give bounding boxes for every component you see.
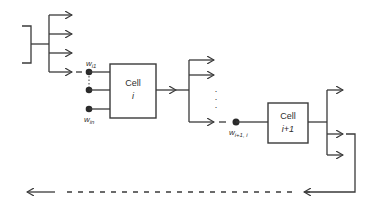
input-bracket	[22, 26, 49, 63]
cell-i-plus-1: Cell i+1	[268, 103, 308, 143]
link-weight: wi+1, i	[229, 119, 268, 139]
svg-text:Cell: Cell	[280, 111, 296, 121]
weight-label-in: win	[84, 115, 95, 125]
left-fanout-arrows	[49, 15, 82, 72]
cell-i-weights: wi1 win	[84, 59, 110, 125]
cell-i-plus-1-output	[308, 90, 343, 155]
cell-i-output: ...	[156, 60, 226, 122]
weight-label-link: wi+1, i	[229, 128, 248, 138]
svg-text:Cell: Cell	[125, 78, 141, 88]
weight-label-i1: wi1	[86, 59, 96, 69]
ellipsis-dots: ...	[215, 84, 218, 110]
cell-i: Cell i	[110, 64, 156, 118]
svg-text:i+1: i+1	[282, 124, 294, 134]
neural-cell-chain-diagram: wi1 win Cell i ... wi+1, i Cell i+1	[0, 0, 376, 210]
